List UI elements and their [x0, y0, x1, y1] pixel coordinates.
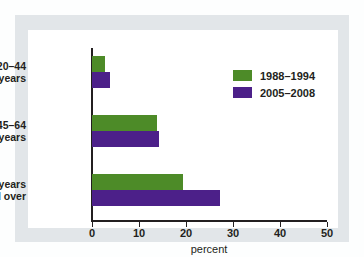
category-label: 20–44years [0, 60, 26, 84]
category-label-line: 20–44 [0, 60, 26, 72]
x-tick-label: 0 [77, 227, 107, 239]
category-label: 45–64years [0, 119, 26, 143]
bar [92, 174, 183, 190]
chart-panel: 01020304050 20–44years45–64years65 years… [15, 15, 349, 242]
legend-item: 1988–1994 [233, 68, 315, 83]
bar [92, 131, 159, 147]
x-tick-label: 30 [218, 227, 248, 239]
category-label: 65 yearsand over [0, 178, 26, 202]
category-label-line: years [0, 72, 26, 84]
bar [92, 115, 157, 131]
legend-swatch-icon [233, 87, 252, 98]
bar [92, 56, 105, 72]
x-tick-label: 20 [171, 227, 201, 239]
x-tick-label: 50 [312, 227, 342, 239]
figure: 01020304050 20–44years45–64years65 years… [0, 0, 364, 257]
category-label-line: and over [0, 190, 26, 202]
x-tick-label: 10 [124, 227, 154, 239]
legend-label: 2005–2008 [260, 87, 315, 99]
category-label-line: 65 years [0, 178, 26, 190]
x-axis-line [91, 220, 327, 222]
bar [92, 190, 220, 206]
x-axis-label: percent [91, 243, 327, 255]
legend-item: 2005–2008 [233, 85, 315, 100]
x-tick-label: 40 [265, 227, 295, 239]
chart-legend: 1988–1994 2005–2008 [233, 68, 315, 102]
category-label-line: years [0, 131, 26, 143]
legend-swatch-icon [233, 70, 252, 81]
legend-label: 1988–1994 [260, 70, 315, 82]
plot-area: 01020304050 20–44years45–64years65 years… [28, 30, 338, 228]
bar [92, 72, 110, 88]
category-label-line: 45–64 [0, 119, 26, 131]
